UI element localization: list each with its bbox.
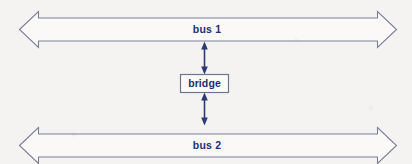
bus-2-label: bus 2 [193, 139, 221, 151]
bus-bridge-diagram: bus 1 bridge bus 2 [0, 0, 412, 164]
diagram-canvas: bus 1 bridge bus 2 [0, 0, 412, 164]
connector-lower-arrowhead-down [201, 118, 208, 126]
connector-lower-arrowhead-up [201, 93, 208, 101]
bridge-node: bridge [181, 75, 229, 93]
connector-bridge-to-bus-2 [201, 93, 208, 126]
connector-upper-arrowhead-up [201, 42, 208, 50]
connector-upper-arrowhead-down [201, 67, 208, 75]
bus-1-label: bus 1 [193, 23, 221, 35]
connector-bridge-to-bus-1 [201, 42, 208, 75]
bridge-label: bridge [188, 77, 221, 89]
